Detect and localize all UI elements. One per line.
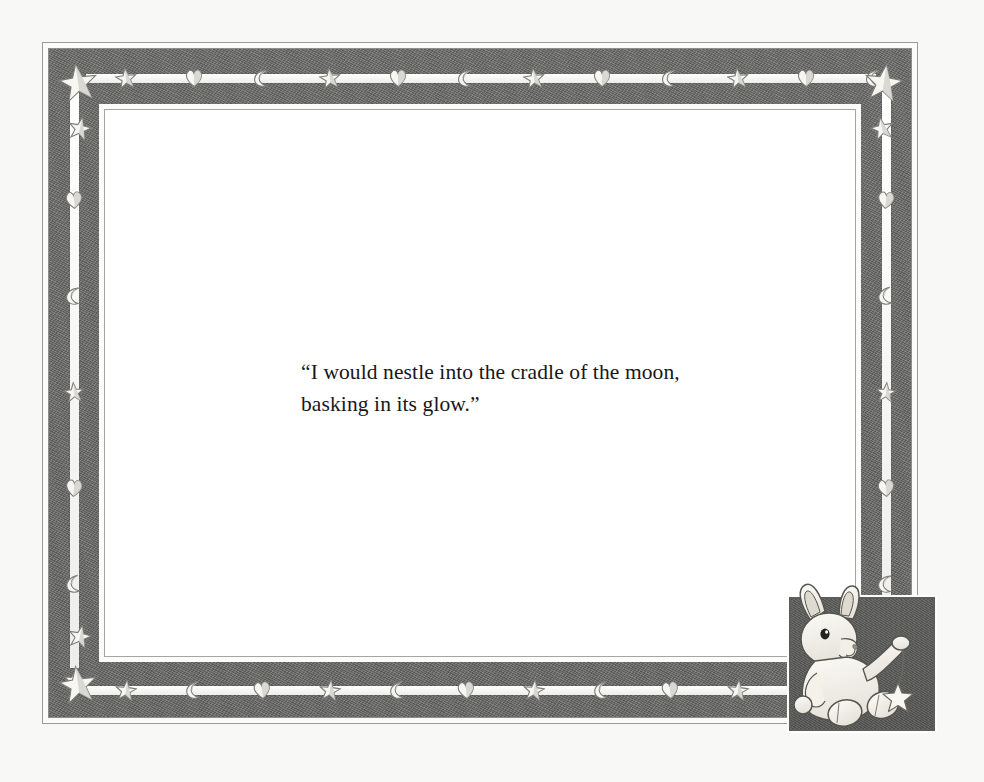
quote-line-2: basking in its glow.” [301, 388, 761, 420]
motif-rail-top [86, 74, 876, 83]
bunny-illustration [789, 597, 935, 731]
bunny-artwork [767, 577, 937, 735]
motif-rail-left [70, 92, 79, 668]
quote-text: “I would nestle into the cradle of the m… [301, 356, 761, 420]
quote-line-1: “I would nestle into the cradle of the m… [301, 356, 761, 388]
storybook-page: “I would nestle into the cradle of the m… [0, 0, 984, 782]
motif-rail-bottom [86, 686, 876, 695]
bunny-eye [820, 629, 829, 640]
